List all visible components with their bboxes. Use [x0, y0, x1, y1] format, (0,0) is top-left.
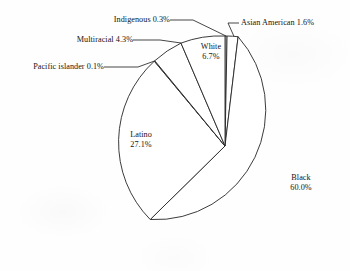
pie-chart-figure: Indigenous 0.3% Asian American 1.6% Mult…: [0, 0, 350, 271]
label-white: White 6.7%: [188, 42, 234, 62]
leader-line-asian-american: [228, 23, 239, 36]
label-latino-name: Latino: [118, 130, 164, 140]
leader-line-indigenous: [170, 20, 226, 36]
label-indigenous: Indigenous 0.3%: [78, 15, 170, 25]
label-multiracial: Multiracial 4.3%: [41, 35, 133, 45]
label-black: Black 60.0%: [278, 173, 324, 193]
label-black-value: 60.0%: [278, 183, 324, 193]
label-pacific-islander: Pacific islander 0.1%: [2, 62, 104, 72]
label-latino: Latino 27.1%: [118, 130, 164, 150]
label-white-value: 6.7%: [188, 52, 234, 62]
label-black-name: Black: [278, 173, 324, 183]
label-white-name: White: [188, 42, 234, 52]
leader-line-multiracial: [133, 40, 181, 43]
label-latino-value: 27.1%: [118, 140, 164, 150]
label-asian-american: Asian American 1.6%: [241, 18, 314, 28]
leader-line-pacific-islander: [104, 61, 155, 67]
